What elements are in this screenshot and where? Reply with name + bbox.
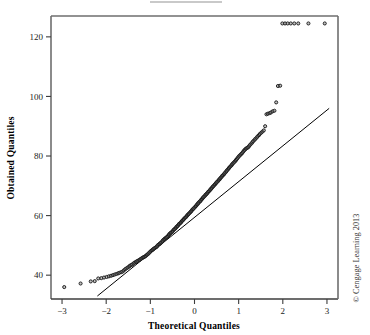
data-point (293, 22, 296, 25)
copyright-credit: © Cengage Learning 2013 (352, 214, 361, 303)
data-point (279, 84, 282, 87)
qq-plot-figure: 406080100120 −3−2−10123 Theoretical Quan… (0, 0, 370, 335)
data-point (273, 109, 276, 112)
data-point (63, 286, 66, 289)
y-tick-label: 60 (34, 211, 44, 221)
y-axis-title: Obtained Quantiles (6, 116, 16, 199)
data-point (297, 22, 300, 25)
data-point (93, 280, 96, 283)
data-point (275, 101, 278, 104)
data-point (264, 125, 267, 128)
x-tick-label: −1 (146, 306, 156, 316)
data-point (289, 22, 292, 25)
x-tick-label: 2 (281, 306, 286, 316)
x-tick-label: −2 (101, 306, 111, 316)
x-tick-label: 0 (192, 306, 197, 316)
figure-background (0, 0, 370, 335)
data-point (79, 282, 82, 285)
y-tick-label: 120 (30, 32, 44, 42)
y-tick-label: 40 (34, 270, 44, 280)
y-tick-label: 100 (30, 92, 44, 102)
data-point (97, 277, 100, 280)
x-tick-label: 1 (236, 306, 241, 316)
data-point (262, 129, 265, 132)
y-tick-label: 80 (34, 151, 44, 161)
data-point (89, 280, 92, 283)
data-point (323, 22, 326, 25)
data-point (307, 22, 310, 25)
x-axis-title: Theoretical Quantiles (148, 321, 240, 331)
x-tick-label: −3 (57, 306, 67, 316)
x-tick-label: 3 (325, 306, 330, 316)
qq-plot-svg: 406080100120 −3−2−10123 Theoretical Quan… (0, 0, 370, 335)
